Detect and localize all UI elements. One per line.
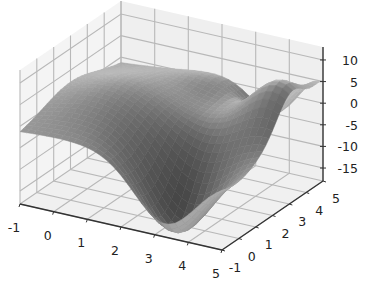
- y-tick-mark: [306, 193, 309, 194]
- x-tick-label: 4: [178, 258, 186, 273]
- y-tick-label: 3: [298, 214, 306, 229]
- z-tick-label: 10: [342, 53, 358, 68]
- x-tick-label: 1: [77, 235, 85, 250]
- y-tick-label: 0: [248, 249, 256, 264]
- y-tick-label: 1: [265, 237, 273, 252]
- z-tick-label: -5: [346, 118, 358, 133]
- y-tick-label: 5: [332, 191, 340, 206]
- z-tick-label: -10: [338, 139, 358, 154]
- surface-plot-3d: -1012345 -1012345 1050-5-10-15: [0, 0, 372, 282]
- x-tick-label: 0: [44, 228, 52, 243]
- y-tick-mark: [239, 239, 242, 240]
- x-tick-mark: [19, 204, 20, 207]
- z-axis-ticks: 1050-5-10-15: [320, 53, 358, 176]
- y-tick-mark: [222, 250, 225, 251]
- x-tick-label: 5: [212, 266, 220, 281]
- x-tick-label: 2: [111, 243, 119, 258]
- x-tick-label: 3: [145, 251, 153, 266]
- y-tick-mark: [289, 204, 292, 205]
- x-tick-label: -1: [8, 220, 20, 235]
- y-tick-mark: [273, 216, 276, 217]
- z-tick-label: 0: [350, 96, 358, 111]
- y-tick-label: 2: [282, 226, 290, 241]
- y-tick-mark: [323, 181, 326, 182]
- y-tick-label: -1: [229, 260, 241, 275]
- z-tick-label: -15: [338, 161, 358, 176]
- y-tick-mark: [256, 227, 259, 228]
- y-tick-label: 4: [315, 203, 323, 218]
- z-tick-label: 5: [350, 75, 358, 90]
